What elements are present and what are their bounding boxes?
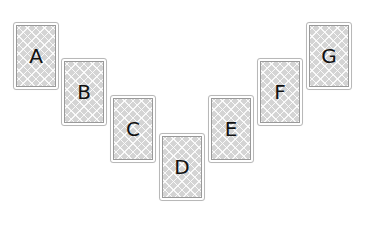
card-c: C [110,95,156,163]
card-d: D [159,133,205,201]
card-a: A [13,22,59,90]
card-back-pattern: E [211,98,251,160]
card-label: G [321,46,337,66]
card-back-pattern: B [64,61,104,123]
card-label: E [225,119,238,139]
card-back-pattern: C [113,98,153,160]
card-label: F [274,82,286,102]
card-label: A [29,46,43,66]
card-label: C [126,119,140,139]
card-label: B [77,82,91,102]
card-back-pattern: A [16,25,56,87]
card-back-pattern: F [260,61,300,123]
card-label: D [174,157,189,177]
card-g: G [306,22,352,90]
card-back-pattern: G [309,25,349,87]
card-f: F [257,58,303,126]
card-e: E [208,95,254,163]
card-b: B [61,58,107,126]
card-back-pattern: D [162,136,202,198]
